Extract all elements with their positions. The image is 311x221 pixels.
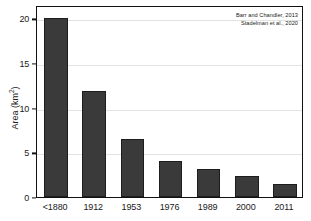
y-axis-title-superscript: 2: [8, 89, 15, 93]
bar-1912: [82, 91, 106, 197]
x-tick-label-1989: 1989: [198, 202, 218, 212]
y-tick-label-5: 5: [24, 148, 29, 158]
bar-1953: [121, 139, 145, 197]
y-tick-label-20: 20: [19, 14, 29, 24]
x-tick-label-1912: 1912: [83, 202, 103, 212]
bar-series: [37, 7, 302, 197]
bar-2011: [273, 184, 297, 197]
source-annotation-line-2: Stadelman et al., 2020: [236, 19, 298, 27]
bar-1976: [159, 161, 183, 197]
source-annotation: Barr and Chandler, 2013Stadelman et al.,…: [236, 11, 298, 28]
y-axis-title-tail: ): [10, 86, 20, 89]
bar-1989: [197, 169, 221, 197]
x-tick-label-2000: 2000: [236, 202, 256, 212]
y-tick-label-10: 10: [19, 104, 29, 114]
plot-area: Barr and Chandler, 2013Stadelman et al.,…: [36, 6, 303, 198]
bar-2000: [235, 176, 259, 197]
y-tick-label-0: 0: [24, 193, 29, 203]
x-axis: <1880191219531976198920002011: [36, 200, 303, 221]
y-tick-label-15: 15: [19, 59, 29, 69]
y-axis-title-text: Area (km: [10, 93, 20, 130]
x-tick-label-1953: 1953: [122, 202, 142, 212]
source-annotation-line-1: Barr and Chandler, 2013: [236, 11, 298, 19]
x-tick-label-2011: 2011: [274, 202, 293, 212]
x-tick-label-<1880: <1880: [43, 202, 68, 212]
bar-<1880: [44, 18, 68, 197]
x-tick-label-1976: 1976: [160, 202, 180, 212]
bar-chart-figure: 05101520 Area (km2) Barr and Chandler, 2…: [0, 0, 311, 221]
y-axis-title: Area (km2): [8, 68, 20, 148]
